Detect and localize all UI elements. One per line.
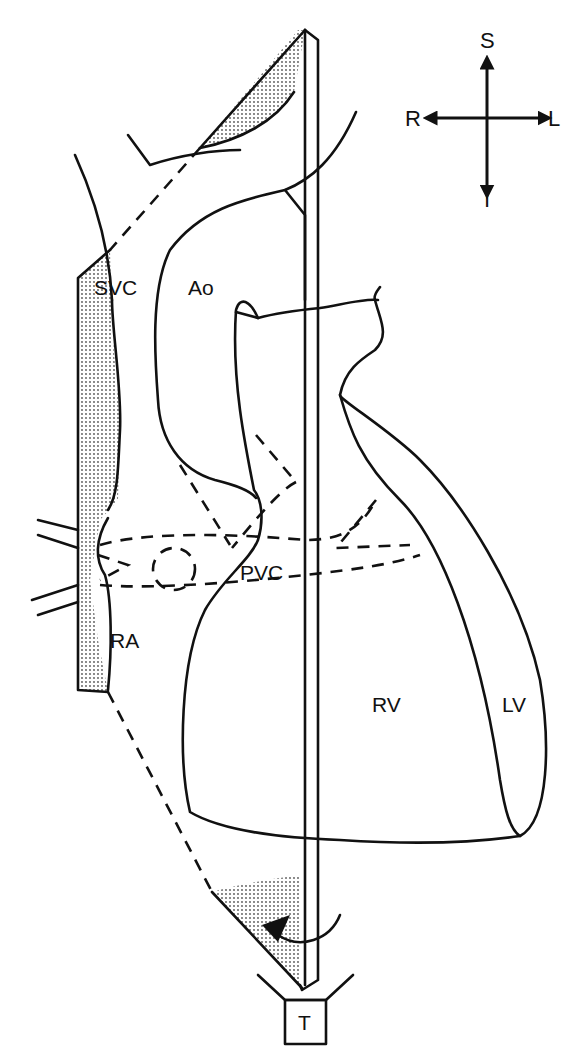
compass-superior-label: S — [480, 28, 495, 53]
label-svc: SVC — [94, 276, 137, 299]
compass-left-label: L — [548, 106, 560, 131]
label-ra: RA — [110, 629, 139, 652]
label-lv: LV — [502, 693, 526, 716]
structure-labels: SVC Ao PVC RA RV LV — [94, 276, 526, 716]
compass-inferior-label: I — [484, 187, 490, 212]
label-rv: RV — [372, 693, 401, 716]
imaging-plane — [78, 30, 318, 990]
compass-right-label: R — [405, 106, 421, 131]
heart-outline — [183, 287, 546, 843]
diagram-canvas: S I R L — [0, 0, 578, 1060]
imaging-plane-shading — [78, 30, 305, 985]
orientation-compass: S I R L — [405, 28, 560, 212]
label-pvc: PVC — [240, 561, 283, 584]
label-ao: Ao — [188, 276, 214, 299]
transducer-label: T — [298, 1011, 311, 1034]
